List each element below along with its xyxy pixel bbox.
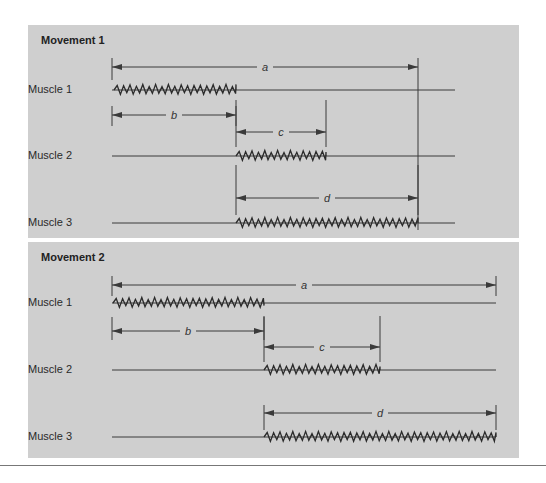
interval-label: c: [278, 126, 284, 138]
interval-label: a: [301, 279, 307, 291]
emg-burst: [113, 297, 264, 307]
interval-label: b: [185, 325, 191, 337]
bottom-divider: [0, 465, 546, 466]
emg-burst: [264, 364, 380, 374]
emg-burst: [236, 217, 418, 227]
interval-label: d: [324, 192, 331, 204]
interval-label: c: [319, 341, 325, 353]
emg-timing-diagram: abcdabcd: [0, 0, 546, 483]
interval-label: d: [377, 407, 384, 419]
interval-label: a: [262, 61, 268, 73]
emg-burst: [236, 150, 326, 160]
emg-burst: [264, 431, 496, 441]
interval-label: b: [171, 109, 177, 121]
emg-burst: [114, 84, 236, 94]
